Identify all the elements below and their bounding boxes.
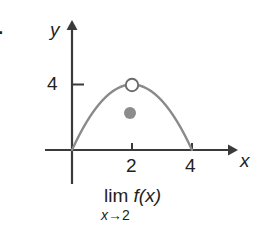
x-tick-label-2: 2: [126, 156, 137, 175]
caption-limit-line: lim f(x): [0, 186, 265, 206]
caption-approach-value: 2: [122, 207, 130, 223]
caption-function: f(x): [134, 185, 161, 206]
limit-figure: . y x 4 2 4 lim f(x) x→2: [0, 0, 265, 247]
x-axis-label: x: [240, 151, 250, 170]
x-tick-label-4: 4: [185, 156, 196, 175]
problem-number: .: [0, 18, 7, 37]
caption-limit-word: lim: [104, 185, 128, 206]
y-tick-label-4: 4: [47, 74, 58, 93]
open-circle-point: [126, 79, 138, 91]
filled-dot-point: [124, 107, 136, 119]
limit-caption: lim f(x) x→2: [0, 186, 265, 223]
caption-approach-line: x→2: [0, 208, 265, 223]
y-axis-arrowhead: [67, 20, 78, 30]
x-axis-arrowhead: [228, 145, 238, 156]
y-axis-label: y: [50, 20, 60, 39]
caption-approach-arrow-icon: →: [108, 207, 122, 223]
